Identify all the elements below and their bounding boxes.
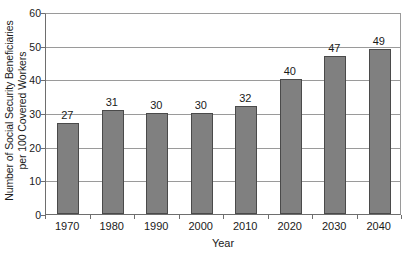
x-tick-label: 1970 [42, 220, 92, 232]
y-tick-mark [41, 13, 45, 14]
y-tick-mark [41, 114, 45, 115]
x-tick-label: 2040 [354, 220, 404, 232]
x-tick-mark [223, 215, 224, 219]
bar [280, 79, 302, 214]
x-tick-mark [45, 215, 46, 219]
y-tick-mark [41, 181, 45, 182]
bar-value-label: 49 [359, 36, 399, 47]
y-tick-mark [41, 148, 45, 149]
bar [57, 123, 79, 214]
x-tick-mark [312, 215, 313, 219]
x-tick-mark [357, 215, 358, 219]
x-tick-mark [401, 215, 402, 219]
bar-value-label: 40 [270, 66, 310, 77]
x-tick-mark [179, 215, 180, 219]
y-tick-label: 40 [11, 75, 41, 85]
bar-value-label: 47 [314, 43, 354, 54]
gridline [46, 114, 400, 115]
bar-value-label: 32 [225, 93, 265, 104]
bar [191, 113, 213, 214]
bar [102, 110, 124, 214]
x-tick-label: 2030 [309, 220, 359, 232]
x-tick-mark [268, 215, 269, 219]
x-axis-title: Year [45, 237, 401, 249]
x-tick-label: 1990 [131, 220, 181, 232]
gridline [46, 181, 400, 182]
y-tick-label: 0 [11, 210, 41, 220]
bar [235, 106, 257, 214]
y-tick-mark [41, 80, 45, 81]
bar-value-label: 30 [181, 100, 221, 111]
bar-value-label: 30 [136, 100, 176, 111]
gridline [46, 148, 400, 149]
bar [146, 113, 168, 214]
y-tick-label: 30 [11, 109, 41, 119]
x-tick-mark [134, 215, 135, 219]
y-tick-mark [41, 47, 45, 48]
bar-value-label: 31 [92, 97, 132, 108]
x-tick-label: 2010 [220, 220, 270, 232]
x-tick-mark [90, 215, 91, 219]
bar-value-label: 27 [47, 110, 87, 121]
x-tick-label: 2020 [265, 220, 315, 232]
x-tick-label: 2000 [176, 220, 226, 232]
gridline [46, 80, 400, 81]
x-tick-label: 1980 [87, 220, 137, 232]
y-tick-label: 20 [11, 143, 41, 153]
y-tick-label: 50 [11, 42, 41, 52]
bar [324, 56, 346, 214]
bar [369, 49, 391, 214]
y-tick-label: 10 [11, 176, 41, 186]
bar-chart: Number of Social Security Beneficiaries … [0, 0, 415, 255]
y-tick-label: 60 [11, 8, 41, 18]
